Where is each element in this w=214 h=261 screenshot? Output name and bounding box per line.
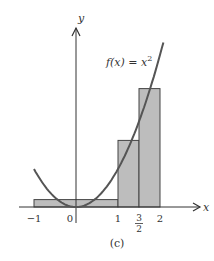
x-tick-labels: −101322	[27, 213, 164, 234]
x-tick-label: −1	[27, 213, 42, 224]
function-label-exponent: 2	[147, 54, 152, 63]
x-tick-label: 0	[67, 213, 73, 224]
rectangle-3	[139, 89, 160, 207]
x-tick-label-denominator: 2	[136, 224, 142, 234]
riemann-rectangles	[34, 89, 160, 207]
x-tick-label-numerator: 3	[136, 213, 142, 223]
function-label-base: f(x) = x	[105, 56, 148, 69]
x-tick-label: 1	[115, 213, 121, 224]
function-label: f(x) = x2	[105, 54, 152, 69]
y-axis-label: y	[77, 12, 85, 25]
x-axis-label: x	[203, 201, 210, 214]
rectangle-2	[118, 140, 139, 207]
x-tick-label: 2	[157, 213, 163, 224]
chart: x y −101322 f(x) = x2 (c)	[0, 0, 214, 261]
figure-caption: (c)	[110, 237, 125, 250]
